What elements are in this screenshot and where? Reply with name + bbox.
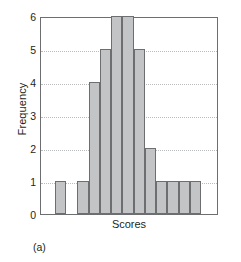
histogram-bar xyxy=(190,181,201,214)
histogram-figure: Frequency 0123456 Scores (a) xyxy=(0,0,241,262)
histogram-bar xyxy=(134,49,145,214)
histogram-bar xyxy=(167,181,178,214)
y-tick-label: 0 xyxy=(18,209,36,221)
histogram-bar xyxy=(89,82,100,214)
histogram-bar xyxy=(145,148,156,214)
figure-caption: (a) xyxy=(33,241,46,253)
y-tick-label: 3 xyxy=(18,110,36,122)
plot-area xyxy=(40,17,218,215)
histogram-bars xyxy=(41,18,217,214)
histogram-bar xyxy=(100,49,111,214)
y-axis-tick-labels: 0123456 xyxy=(18,17,36,215)
histogram-bar xyxy=(77,181,88,214)
y-tick-label: 4 xyxy=(18,77,36,89)
histogram-bar xyxy=(179,181,190,214)
histogram-bar xyxy=(111,16,122,214)
y-tick-label: 2 xyxy=(18,143,36,155)
histogram-bar xyxy=(55,181,66,214)
histogram-bar xyxy=(122,16,133,214)
histogram-bar xyxy=(156,181,167,214)
y-tick-label: 1 xyxy=(18,176,36,188)
y-tick-label: 6 xyxy=(18,11,36,23)
x-axis-label: Scores xyxy=(40,218,218,230)
y-tick-label: 5 xyxy=(18,44,36,56)
